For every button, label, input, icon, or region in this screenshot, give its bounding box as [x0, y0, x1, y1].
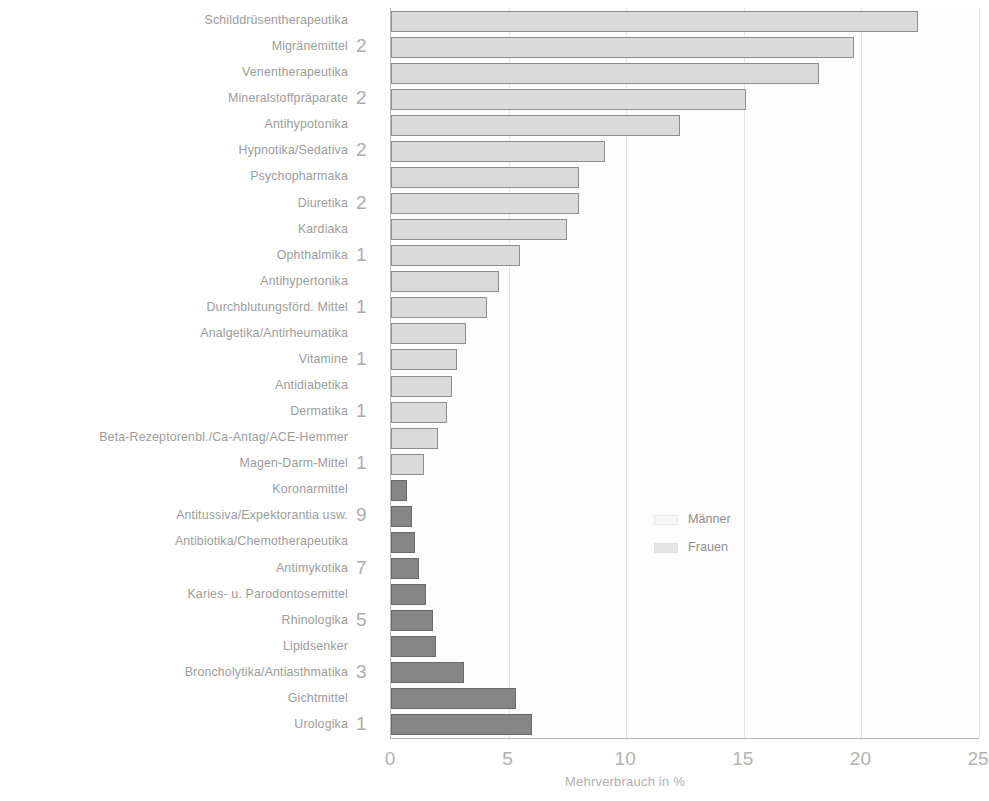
category-label: Vitamine	[0, 353, 348, 366]
category-label: Rhinologika	[0, 614, 348, 627]
bar	[391, 323, 466, 344]
rank-tick-label: 3	[356, 662, 388, 682]
category-label: Psychopharmaka	[0, 170, 348, 183]
bar	[391, 37, 854, 58]
legend-label: Männer	[688, 512, 731, 526]
legend: MännerFrauen	[688, 512, 828, 568]
category-label: Schilddrüsentherapeutika	[0, 14, 348, 27]
bar	[391, 349, 457, 370]
bar	[391, 480, 407, 501]
plot-area	[390, 8, 980, 738]
legend-item: Männer	[688, 512, 828, 540]
bar	[391, 63, 819, 84]
category-label: Analgetika/Antirheumatika	[0, 327, 348, 340]
plot-bottom-border	[390, 738, 979, 739]
category-label: Antitussiva/Expektorantia usw.	[0, 509, 348, 522]
gridline-15	[744, 8, 745, 738]
category-label: Lipidsenker	[0, 640, 348, 653]
rank-tick-label: 9	[356, 505, 388, 525]
gridline-25	[979, 8, 980, 738]
rank-tick-label: 1	[356, 297, 388, 317]
bar	[391, 297, 487, 318]
x-tick-label: 25	[967, 748, 988, 770]
category-label: Antidiabetika	[0, 379, 348, 392]
bar	[391, 610, 433, 631]
x-tick-label: 5	[502, 748, 513, 770]
legend-item: Frauen	[688, 540, 828, 568]
category-label: Antihypotonika	[0, 118, 348, 131]
bar	[391, 193, 579, 214]
rank-tick-label: 1	[356, 245, 388, 265]
bar	[391, 245, 520, 266]
category-label: Beta-Rezeptorenbl./Ca-Antag/ACE-Hemmer	[0, 431, 348, 444]
bar	[391, 376, 452, 397]
legend-swatch-icon	[654, 515, 678, 525]
category-label: Venentherapeutika	[0, 66, 348, 79]
bar	[391, 584, 426, 605]
rank-tick-label: 2	[356, 88, 388, 108]
category-label: Karies- u. Parodontosemittel	[0, 588, 348, 601]
category-label: Antimykotika	[0, 562, 348, 575]
category-label: Gichtmittel	[0, 692, 348, 705]
category-axis-labels: SchilddrüsentherapeutikaMigränemittelVen…	[0, 8, 348, 738]
category-label: Magen-Darm-Mittel	[0, 457, 348, 470]
rank-tick-label: 1	[356, 401, 388, 421]
bar	[391, 428, 438, 449]
bar	[391, 714, 532, 735]
bar	[391, 688, 516, 709]
bar	[391, 89, 746, 110]
bar	[391, 141, 605, 162]
rank-tick-labels: 22221111197531	[356, 8, 388, 738]
category-label: Antibiotika/Chemotherapeutika	[0, 535, 348, 548]
bar	[391, 219, 567, 240]
rank-tick-label: 1	[356, 714, 388, 734]
category-label: Dermatika	[0, 405, 348, 418]
rank-tick-label: 5	[356, 610, 388, 630]
bar	[391, 636, 436, 657]
category-label: Durchblutungsförd. Mittel	[0, 301, 348, 314]
category-label: Urologika	[0, 718, 348, 731]
x-tick-label: 0	[385, 748, 396, 770]
category-label: Ophthalmika	[0, 249, 348, 262]
category-label: Antihypertonika	[0, 275, 348, 288]
x-tick-label: 15	[732, 748, 753, 770]
rank-tick-label: 7	[356, 558, 388, 578]
bar	[391, 506, 412, 527]
category-label: Kardiaka	[0, 223, 348, 236]
category-label: Hypnotika/Sedativa	[0, 144, 348, 157]
category-label: Koronarmittel	[0, 483, 348, 496]
bar	[391, 662, 464, 683]
x-axis-tick-labels: 0510152025	[390, 748, 978, 774]
category-label: Broncholytika/Antiasthmatika	[0, 666, 348, 679]
bar	[391, 271, 499, 292]
bar	[391, 454, 424, 475]
rank-tick-label: 1	[356, 349, 388, 369]
bar	[391, 11, 918, 32]
legend-swatch-icon	[654, 543, 678, 553]
legend-label: Frauen	[688, 540, 728, 554]
x-tick-label: 20	[850, 748, 871, 770]
bar	[391, 558, 419, 579]
rank-tick-label: 1	[356, 453, 388, 473]
category-label: Diuretika	[0, 197, 348, 210]
bar	[391, 167, 579, 188]
gridline-20	[861, 8, 862, 738]
category-label: Migränemittel	[0, 40, 348, 53]
rank-tick-label: 2	[356, 36, 388, 56]
category-label: Mineralstoffpräparate	[0, 92, 348, 105]
x-tick-label: 10	[615, 748, 636, 770]
rank-tick-label: 2	[356, 140, 388, 160]
rank-tick-label: 2	[356, 193, 388, 213]
bar	[391, 115, 680, 136]
bar	[391, 532, 415, 553]
bar	[391, 402, 447, 423]
x-axis-title: Mehrverbrauch in %	[390, 774, 860, 789]
